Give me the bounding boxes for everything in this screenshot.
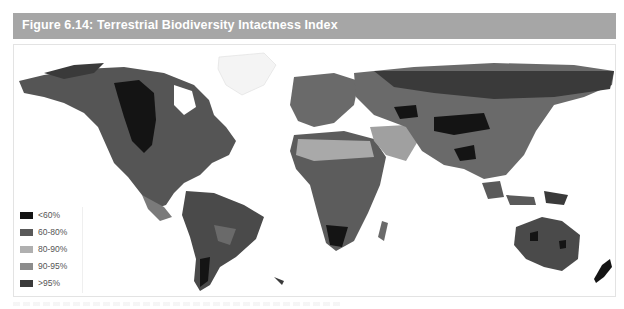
map-frame: <60% 60-80% 80-90% 90-95% >95%: [13, 44, 616, 297]
legend-label: <60%: [38, 210, 60, 220]
legend-swatch: [20, 229, 33, 236]
legend-item: 90-95%: [20, 260, 67, 272]
legend-label: >95%: [38, 278, 60, 288]
south-america-region: [182, 191, 264, 291]
figure-header: Figure 6.14: Terrestrial Biodiversity In…: [13, 13, 616, 39]
europe-region: [290, 73, 359, 127]
legend-label: 80-90%: [38, 244, 67, 254]
figure-title: Figure 6.14: Terrestrial Biodiversity In…: [22, 18, 338, 32]
legend-label: 90-95%: [38, 261, 67, 271]
australia-region: [514, 217, 580, 271]
legend-item: <60%: [20, 209, 60, 221]
legend-swatch: [20, 263, 33, 270]
faint-footer-line: [13, 302, 343, 306]
legend-item: 60-80%: [20, 226, 67, 238]
legend-swatch: [20, 212, 33, 219]
legend-label: 60-80%: [38, 227, 67, 237]
southeast-asia-region: [482, 181, 568, 205]
greenland-region: [218, 53, 276, 95]
legend-swatch: [20, 246, 33, 253]
map-legend: <60% 60-80% 80-90% 90-95% >95%: [16, 207, 83, 293]
world-map: [14, 45, 615, 296]
legend-item: 80-90%: [20, 243, 67, 255]
legend-item: >95%: [20, 277, 60, 289]
asia-region: [354, 63, 614, 179]
legend-swatch: [20, 280, 33, 287]
new-zealand-region: [594, 259, 612, 283]
africa-region: [290, 131, 388, 251]
